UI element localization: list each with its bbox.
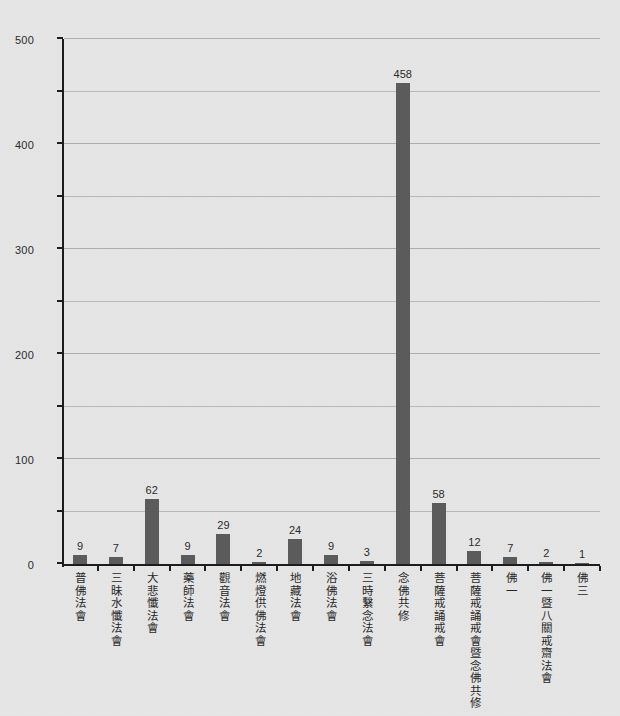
gridline xyxy=(64,143,600,144)
x-axis-tick xyxy=(312,566,314,571)
y-axis-tick-label: 300 xyxy=(0,244,34,256)
y-axis-tick-label: 400 xyxy=(0,139,34,151)
gridline xyxy=(64,406,600,407)
x-axis-tick xyxy=(240,566,242,571)
plot-area: 0100200300400500 9762929224934585812721 xyxy=(62,39,600,566)
y-axis-tick xyxy=(57,562,63,564)
x-axis-tick xyxy=(169,566,171,571)
y-axis-tick xyxy=(57,510,63,512)
y-axis-tick xyxy=(57,90,63,92)
x-axis-category-label: 大悲懺法會 xyxy=(145,572,158,635)
x-axis-category-label: 觀音法會 xyxy=(217,572,230,622)
x-axis-category-label: 佛三 xyxy=(576,572,589,597)
bar-value-label: 2 xyxy=(526,547,566,559)
bar-chart: 0100200300400500 9762929224934585812721 … xyxy=(0,0,620,716)
y-axis-tick xyxy=(57,247,63,249)
y-axis-tick xyxy=(57,195,63,197)
bar-value-label: 12 xyxy=(454,536,494,548)
x-axis-tick xyxy=(599,566,601,571)
gridline xyxy=(64,38,600,39)
x-axis-category-label: 三昧水懺法會 xyxy=(110,572,123,647)
bar-value-label: 29 xyxy=(203,519,243,531)
x-axis-category-label: 念佛共修 xyxy=(396,572,409,622)
bar-value-label: 3 xyxy=(347,546,387,558)
x-axis-tick xyxy=(276,566,278,571)
bar-value-label: 1 xyxy=(562,548,602,560)
y-axis-tick-label: 200 xyxy=(0,349,34,361)
x-axis-tick xyxy=(563,566,565,571)
bar-value-label: 24 xyxy=(275,524,315,536)
x-axis-line xyxy=(62,564,600,566)
bar xyxy=(324,555,338,564)
x-axis-tick xyxy=(491,566,493,571)
x-axis-category-label: 三時繫念法會 xyxy=(361,572,374,647)
bar-value-label: 62 xyxy=(132,484,172,496)
y-axis-tick xyxy=(57,457,63,459)
y-axis-tick xyxy=(57,352,63,354)
bar xyxy=(539,562,553,564)
y-axis-tick xyxy=(57,300,63,302)
x-axis-tick xyxy=(204,566,206,571)
x-axis-category-label: 浴佛法會 xyxy=(325,572,338,622)
bar xyxy=(181,555,195,564)
x-axis-category-label: 佛一暨八關戒齋法會 xyxy=(540,572,553,685)
y-axis-tick xyxy=(57,405,63,407)
x-axis-category-label: 地藏法會 xyxy=(289,572,302,622)
x-axis-category-label: 藥師法會 xyxy=(181,572,194,622)
x-axis-tick xyxy=(420,566,422,571)
gridline xyxy=(64,458,600,459)
bar xyxy=(503,557,517,564)
gridline xyxy=(64,301,600,302)
bar xyxy=(288,539,302,564)
x-axis-tick xyxy=(527,566,529,571)
bar xyxy=(216,534,230,564)
x-axis-category-label: 菩薩戒誦戒會暨念佛共修 xyxy=(468,572,481,710)
x-axis-tick xyxy=(348,566,350,571)
y-axis-tick xyxy=(57,37,63,39)
gridline xyxy=(64,91,600,92)
x-axis-tick xyxy=(456,566,458,571)
gridline xyxy=(64,248,600,249)
x-axis-category-label: 佛一 xyxy=(504,572,517,597)
bar-value-label: 458 xyxy=(383,68,423,80)
y-axis-tick xyxy=(57,142,63,144)
gridline xyxy=(64,196,600,197)
x-axis-tick xyxy=(384,566,386,571)
gridline xyxy=(64,353,600,354)
bar-value-label: 58 xyxy=(419,488,459,500)
bar-value-label: 9 xyxy=(311,540,351,552)
bar xyxy=(396,83,410,564)
bar xyxy=(145,499,159,564)
bar-value-label: 7 xyxy=(96,542,136,554)
x-axis-category-label: 普佛法會 xyxy=(74,572,87,622)
x-axis-tick xyxy=(133,566,135,571)
bar xyxy=(575,563,589,564)
bar xyxy=(109,557,123,564)
bar xyxy=(360,561,374,564)
bar-value-label: 7 xyxy=(490,542,530,554)
y-axis-tick-label: 0 xyxy=(0,559,34,571)
bar-value-label: 9 xyxy=(60,540,100,552)
bar xyxy=(73,555,87,564)
y-axis-tick-label: 500 xyxy=(0,34,34,46)
y-axis-tick-label: 100 xyxy=(0,454,34,466)
bar-value-label: 9 xyxy=(168,540,208,552)
x-axis-tick xyxy=(97,566,99,571)
bar-value-label: 2 xyxy=(239,547,279,559)
y-axis-line xyxy=(62,39,64,567)
x-axis-category-label: 菩薩戒誦戒會 xyxy=(432,572,445,647)
bar xyxy=(432,503,446,564)
bar xyxy=(467,551,481,564)
bar xyxy=(252,562,266,564)
x-axis-category-label: 燃燈供佛法會 xyxy=(253,572,266,647)
